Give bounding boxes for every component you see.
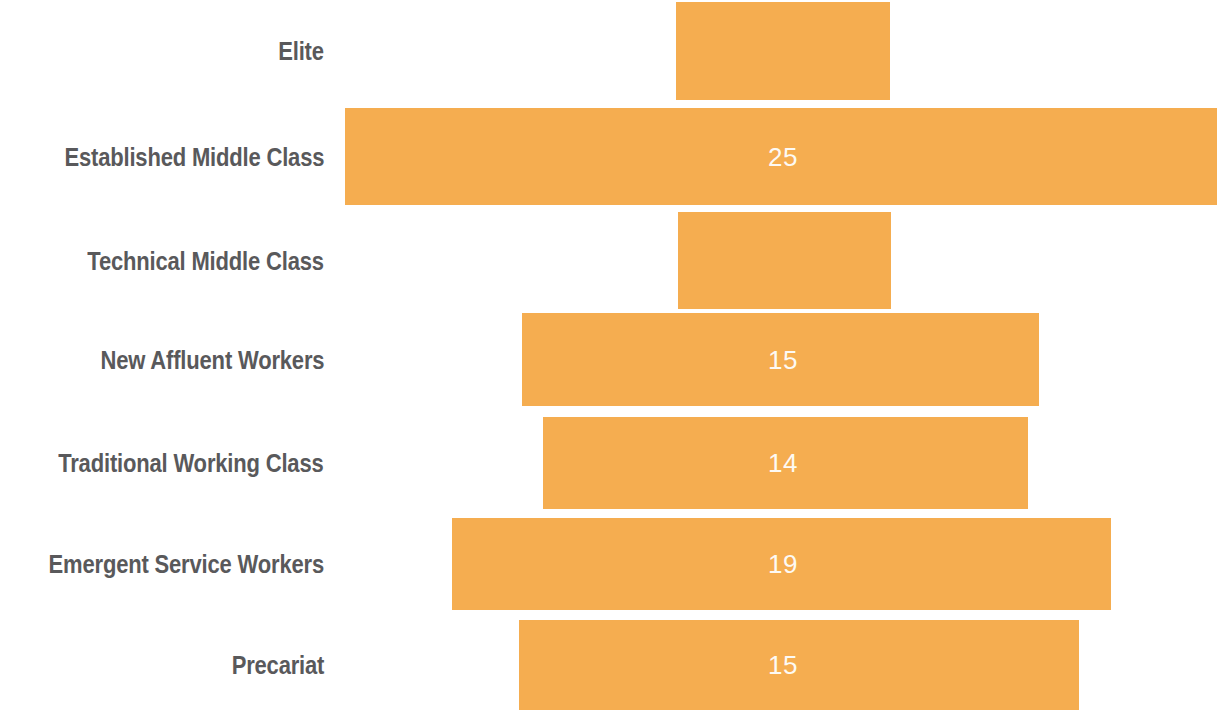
category-label: New Affluent Workers [70, 347, 324, 372]
bar-emergent-service-workers[interactable]: 19 [452, 518, 1111, 610]
bar-new-affluent-workers[interactable]: 15 [522, 313, 1039, 406]
bar-traditional-working-class[interactable]: 14 [543, 417, 1028, 509]
bar-precariat[interactable]: 15 [519, 620, 1079, 710]
category-label: Traditional Working Class [22, 451, 324, 476]
bar-technical-middle-class[interactable]: 6 [678, 212, 891, 309]
bar-elite[interactable]: 6 [676, 2, 890, 100]
chart-row: Emergent Service Workers 19 [0, 518, 1217, 610]
bar-value-label: 15 [753, 347, 813, 373]
chart-row: Traditional Working Class 14 [0, 417, 1217, 509]
chart-row: Precariat 15 [0, 620, 1217, 710]
chart-row: New Affluent Workers 15 [0, 313, 1217, 406]
bar-value-label: 15 [753, 652, 813, 678]
bar-value-label: 25 [753, 144, 813, 170]
category-label: Established Middle Class [29, 144, 324, 169]
bar-established-middle-class[interactable]: 25 [345, 108, 1217, 205]
category-label: Technical Middle Class [55, 248, 324, 273]
bar-value-label: 19 [753, 551, 813, 577]
chart-rows: Elite 6 Established Middle Class 25 Tech… [0, 0, 1217, 710]
chart-row: Technical Middle Class 6 [0, 212, 1217, 309]
category-label: Emergent Service Workers [11, 552, 324, 577]
category-label: Precariat [219, 653, 324, 678]
bar-chart: Elite 6 Established Middle Class 25 Tech… [0, 0, 1217, 710]
bar-value-label: 14 [753, 450, 813, 476]
chart-row: Elite 6 [0, 2, 1217, 100]
category-label: Elite [272, 39, 324, 64]
chart-row: Established Middle Class 25 [0, 108, 1217, 205]
